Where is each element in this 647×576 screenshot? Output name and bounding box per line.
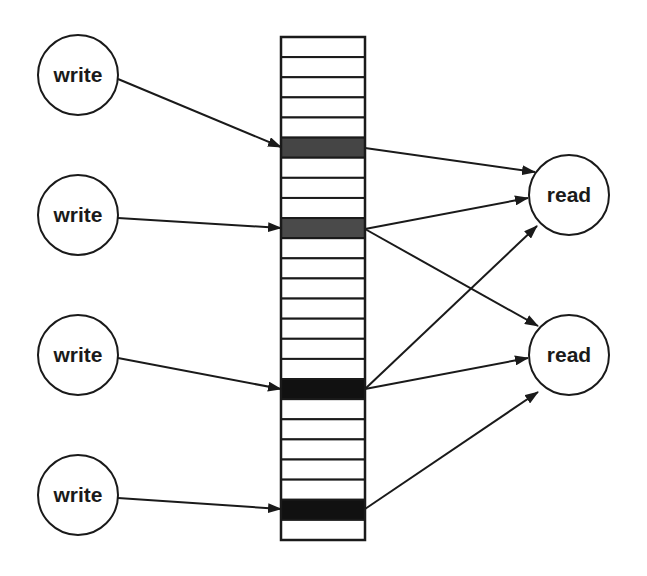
node-write2: write	[38, 175, 118, 255]
arrow-buffer-row-9-to-read1	[365, 198, 528, 229]
node-label: read	[547, 183, 591, 206]
buffer-slot-empty	[281, 238, 365, 258]
arrow-write2-to-buffer-row-9	[118, 218, 281, 228]
buffer-slot-empty	[281, 399, 365, 419]
buffer-slot-empty	[281, 359, 365, 379]
node-read1: read	[529, 155, 609, 235]
buffer-slot-empty	[281, 520, 365, 540]
arrow-buffer-row-17-to-read1	[365, 226, 537, 389]
node-read2: read	[529, 315, 609, 395]
node-write3: write	[38, 315, 118, 395]
buffer-slot-empty	[281, 460, 365, 480]
node-write1: write	[38, 35, 118, 115]
node-label: write	[52, 343, 102, 366]
buffer-slot-empty	[281, 198, 365, 218]
buffer-slot-empty	[281, 37, 365, 57]
arrow-write4-to-buffer-row-23	[118, 498, 281, 509]
buffer-slot-empty	[281, 117, 365, 137]
buffer-slot-empty	[281, 439, 365, 459]
buffer-slot-empty	[281, 278, 365, 298]
buffer-slot-empty	[281, 158, 365, 178]
buffer-slot-filled	[281, 379, 365, 399]
buffer-slot-empty	[281, 57, 365, 77]
node-label: write	[52, 483, 102, 506]
shared-buffer	[281, 37, 365, 540]
buffer-slot-empty	[281, 77, 365, 97]
buffer-slot-empty	[281, 319, 365, 339]
node-label: read	[547, 343, 591, 366]
buffer-slot-empty	[281, 97, 365, 117]
buffer-slot-empty	[281, 178, 365, 198]
buffer-slot-filled	[281, 500, 365, 520]
arrow-buffer-row-23-to-read2	[365, 392, 538, 509]
buffer-slot-filled	[281, 218, 365, 238]
node-label: write	[52, 203, 102, 226]
buffer-slot-empty	[281, 258, 365, 278]
arrow-buffer-row-5-to-read1	[365, 148, 535, 172]
arrow-buffer-row-9-to-read2	[365, 229, 538, 326]
buffer-slot-empty	[281, 339, 365, 359]
arrow-write1-to-buffer-row-5	[118, 79, 281, 147]
arrow-buffer-row-17-to-read2	[365, 358, 528, 389]
buffer-slot-empty	[281, 419, 365, 439]
node-label: write	[52, 63, 102, 86]
arrow-write3-to-buffer-row-17	[118, 358, 281, 389]
buffer-slot-filled	[281, 138, 365, 158]
buffer-slot-empty	[281, 299, 365, 319]
buffer-slot-empty	[281, 480, 365, 500]
write-read-buffer-diagram: writewritewritewritereadread	[0, 0, 647, 576]
node-write4: write	[38, 455, 118, 535]
